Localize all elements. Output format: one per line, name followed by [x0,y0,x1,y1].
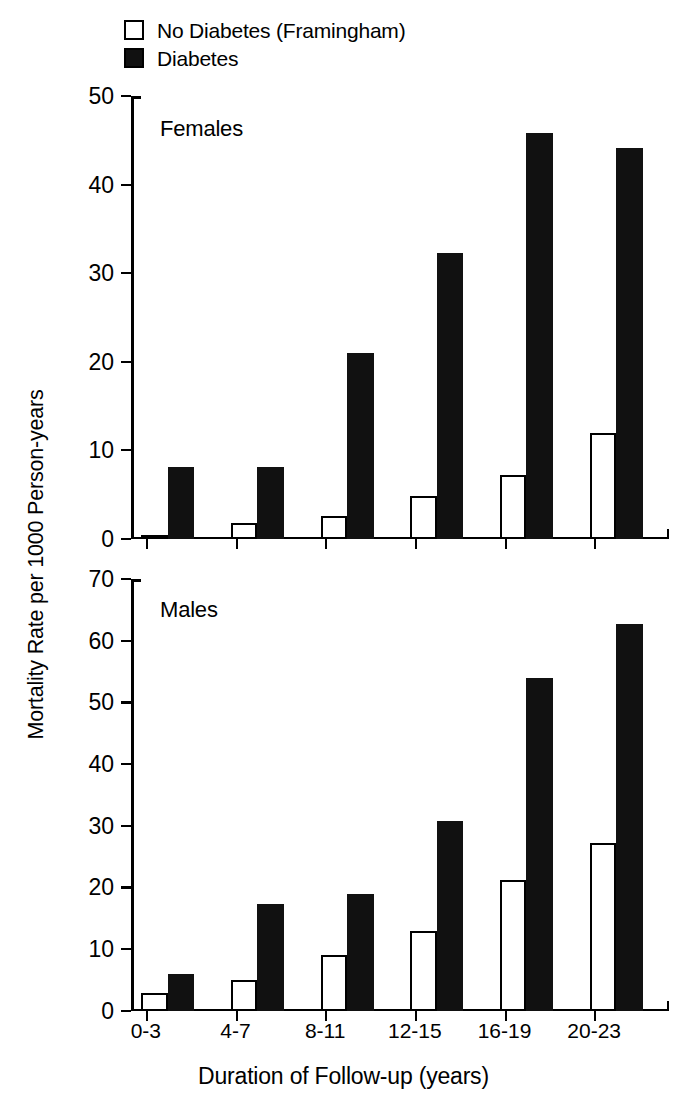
bar-males-12-15-diabetes [437,821,463,1011]
bar-females-0-3-diabetes [168,467,194,539]
bar-females-4-7-diabetes [257,467,283,539]
bar-females-16-19-no-diabetes [500,475,526,539]
x-axis-title: Duration of Follow-up (years) [0,1063,687,1090]
y-tick-males-70: 70 [121,578,131,580]
y-tick-label-females-50: 50 [88,84,114,107]
y-tick-label-males-30: 30 [88,814,114,837]
bar-females-12-15-diabetes [437,253,463,539]
bar-males-4-7-no-diabetes [231,980,257,1011]
legend-label-diabetes: Diabetes [157,48,238,69]
x-tick-females-8-11 [325,539,327,549]
bar-males-12-15-no-diabetes [410,931,436,1011]
legend-label-no-diabetes: No Diabetes (Framingham) [157,20,405,41]
bar-males-0-3-no-diabetes [141,993,167,1012]
y-tick-females-20: 20 [121,361,131,363]
y-tick-label-males-40: 40 [88,753,114,776]
bar-males-16-19-diabetes [526,678,552,1011]
y-tick-label-males-10: 10 [88,938,114,961]
y-tick-label-males-60: 60 [88,629,114,652]
y-tick-label-females-10: 10 [88,439,114,462]
legend-item-diabetes: Diabetes [124,44,405,72]
x-axis-label-20-23: 20-23 [567,1019,621,1043]
y-tick-males-30: 30 [121,825,131,827]
bar-females-4-7-no-diabetes [231,523,257,539]
y-tick-males-60: 60 [121,640,131,642]
bar-females-20-23-no-diabetes [590,433,616,539]
panel-females: Females 01020304050 [0,85,687,555]
x-tick-females-20-23 [594,539,596,549]
x-axis-label-12-15: 12-15 [388,1019,442,1043]
y-tick-label-males-70: 70 [88,567,114,590]
bar-females-20-23-diabetes [616,148,642,539]
bars-group-males [131,579,669,1011]
y-tick-label-females-30: 30 [88,262,114,285]
bar-females-8-11-no-diabetes [321,516,347,539]
plot-area-females: 01020304050 [131,96,669,539]
legend-swatch-open-icon [124,20,144,40]
bar-females-16-19-diabetes [526,133,552,539]
y-tick-females-0: 0 [121,538,131,540]
y-tick-females-10: 10 [121,449,131,451]
bar-females-8-11-diabetes [347,353,373,539]
y-tick-label-females-0: 0 [101,527,114,550]
y-tick-females-50: 50 [121,95,131,97]
y-tick-label-males-50: 50 [88,691,114,714]
bar-males-20-23-no-diabetes [590,843,616,1011]
x-tick-females-4-7 [236,539,238,549]
bar-males-4-7-diabetes [257,904,283,1011]
y-tick-label-females-20: 20 [88,350,114,373]
bar-females-12-15-no-diabetes [410,496,436,539]
plot-area-males: 010203040506070 [131,579,669,1011]
y-tick-females-30: 30 [121,272,131,274]
bar-males-8-11-diabetes [347,894,373,1011]
legend-swatch-filled-icon [124,48,144,68]
x-axis-label-4-7: 4-7 [220,1019,250,1043]
x-axis-label-0-3: 0-3 [131,1019,161,1043]
panel-males: Males 010203040506070 [0,565,687,1025]
x-tick-females-0-3 [146,539,148,549]
y-tick-label-males-0: 0 [101,999,114,1022]
legend-item-no-diabetes: No Diabetes (Framingham) [124,16,405,44]
bar-males-16-19-no-diabetes [500,880,526,1011]
bar-males-0-3-diabetes [168,974,194,1011]
y-tick-males-10: 10 [121,948,131,950]
x-tick-females-16-19 [505,539,507,549]
y-tick-label-males-20: 20 [88,876,114,899]
y-tick-males-40: 40 [121,763,131,765]
y-tick-label-females-40: 40 [88,173,114,196]
bar-males-8-11-no-diabetes [321,955,347,1011]
x-axis-label-16-19: 16-19 [478,1019,532,1043]
figure-mortality-by-followup: No Diabetes (Framingham) Diabetes Mortal… [0,0,687,1109]
x-tick-females-12-15 [415,539,417,549]
x-axis-tick-labels: 0-34-78-1112-1516-1920-23 [131,1019,669,1049]
y-tick-males-50: 50 [121,701,131,703]
y-tick-females-40: 40 [121,184,131,186]
y-tick-males-20: 20 [121,886,131,888]
bar-males-20-23-diabetes [616,624,642,1011]
legend: No Diabetes (Framingham) Diabetes [124,16,405,72]
bars-group-females [131,96,669,539]
y-tick-males-0: 0 [121,1010,131,1012]
x-axis-label-8-11: 8-11 [305,1019,345,1043]
